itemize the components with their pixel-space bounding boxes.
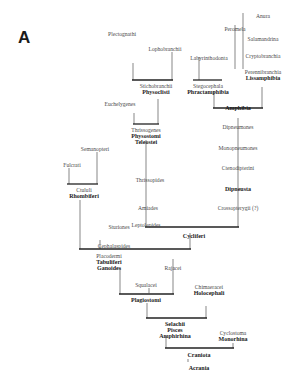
taxon-labyrinthodonta: Labyrinthodonta: [190, 55, 227, 61]
taxon-peromela: Peromela: [224, 26, 245, 32]
taxon-dipneusta: Dipneusta: [225, 186, 251, 192]
taxon-squalacei: Squalacei: [135, 282, 157, 288]
taxon-semanopteri: Semanopteri: [81, 146, 109, 152]
taxon-amphirhina: Amphirhina: [159, 333, 191, 339]
taxon-leptolepides: Leptolepides: [132, 222, 161, 228]
taxon-rajacei: Rajacei: [165, 265, 182, 271]
taxon-crossopterygii: Crossopterygii (?): [218, 205, 259, 211]
taxon-fulcrati: Fulcrati: [63, 162, 80, 168]
taxon-monopneumones: Monopneumones: [219, 145, 258, 151]
taxon-craniota: Craniota: [188, 352, 211, 358]
taxon-acrania: Acrania: [189, 365, 210, 371]
taxon-amiades: Amiades: [138, 205, 158, 211]
taxon-euchelygenes: Euchelygenes: [104, 101, 135, 107]
taxon-lissamphibia: Lissamphibia: [246, 75, 281, 81]
taxon-phractamphibia: Phractamphibia: [187, 89, 229, 95]
taxon-lophobranchii: Lophobranchii: [149, 46, 182, 52]
taxon-teleostei: Teleostei: [135, 139, 157, 145]
taxon-salamandrina: Salamandrina: [248, 36, 279, 42]
taxon-cephalaspides: Cephalaspides: [98, 243, 130, 249]
taxon-physoclisti: Physoclisti: [142, 89, 169, 95]
taxon-rhombiferi: Rhombiferi: [69, 193, 99, 199]
taxon-plectognathi: Plectognathi: [108, 31, 136, 37]
taxon-monorhina: Monorhina: [218, 336, 247, 342]
taxon-sturiones: Sturiones: [108, 224, 129, 230]
taxon-thrissopides: Thrissopides: [136, 177, 165, 183]
taxon-ctenodipterini: Ctenodipterini: [222, 165, 254, 171]
taxon-dipneumones: Dipneumones: [222, 124, 253, 130]
taxon-amphibia: Amphibia: [225, 105, 251, 111]
taxon-holocephali: Holocephali: [194, 290, 225, 296]
taxon-cycliferi: Cycliferi: [183, 233, 205, 239]
taxon-ganoides: Ganoides: [97, 265, 121, 271]
taxon-plagiostomi: Plagiostomi: [131, 297, 161, 303]
taxon-cryptobranchia: Cryptobranchia: [246, 53, 281, 59]
taxon-anura: Anura: [256, 13, 270, 19]
